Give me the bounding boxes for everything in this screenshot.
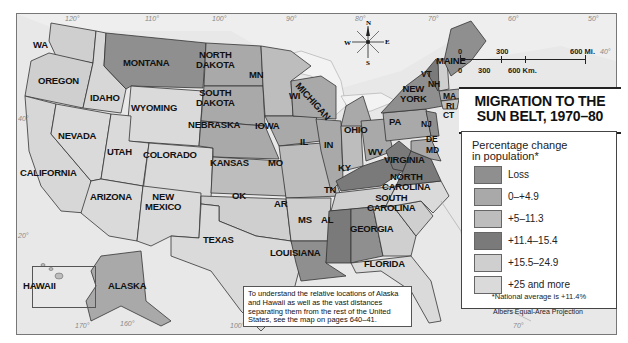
state-label-nevada: NEVADA [58,131,96,141]
state-label-hawaii: HAWAII [23,281,56,291]
legend-item-0-4.9: 0–+4.9 [474,188,614,206]
legend-item-15.5-24.9: +15.5–24.9 [474,254,614,272]
state-label-colorado: COLORADO [143,150,197,160]
legend-item-11.4-15.4: +11.4–15.4 [474,232,614,250]
longitude-label: 90° [286,15,297,22]
scale-mile-600: 600 Mi. [570,47,595,56]
longitude-label: 50° [588,15,599,22]
state-label-pa: PA [389,117,401,127]
projection-label: Albers Equal-Area Projection [461,308,615,315]
state-label-kansas: KANSAS [210,158,249,168]
state-label-wv: WV [368,147,383,157]
legend-swatch [474,232,502,250]
state-label-ct: CT [443,110,454,120]
state-label-utah: UTAH [107,147,132,157]
state-label-ky: KY [338,163,351,173]
longitude-label: 160° [120,320,134,327]
state-label-new-mexico: NEWMEXICO [145,192,181,212]
legend-item-5-11.3: +5–11.3 [474,210,614,228]
map-title: MIGRATION TO THESUN BELT, 1970–80 [459,87,621,134]
scale-mile-300: 300 [496,47,509,56]
scale-km-0: 0 [458,66,462,75]
state-label-new-york: NEWYORK [400,84,427,104]
legend-heading: Percentage changein population* [472,140,567,162]
scale-km-600: 600 Km. [508,66,537,75]
state-label-vt: VT [421,69,431,79]
state-label-tn: TN [324,185,336,195]
latitude-label: 20° [18,232,29,239]
state-label-ma: MA [443,91,456,101]
state-label-md: MD [426,145,439,155]
state-label-il: IL [300,137,308,147]
svg-text:S: S [366,59,370,66]
state-label-arizona: ARIZONA [90,192,132,202]
legend-item-loss: Loss [474,166,614,184]
latitude-label: 40° [18,115,29,122]
legend-footnote: *National average is +11.4% [462,292,616,301]
legend-swatch [474,188,502,206]
state-label-california: CALIFORNIA [20,168,77,178]
state-label-louisiana: LOUISIANA [270,248,320,258]
scale-bar: 0 300 600 Mi. 0 300 600 Km. [438,47,608,77]
state-label-south-carolina: SOUTHCAROLINA [367,193,416,213]
state-label-nj: NJ [421,119,431,129]
state-label-iowa: IOWA [255,121,280,131]
longitude-label: 70° [513,322,524,329]
state-label-wa: WA [33,40,48,50]
longitude-label: 110° [145,15,159,22]
svg-text:W: W [344,39,351,47]
longitude-label: 60° [508,15,519,22]
longitude-label: 170° [75,322,89,329]
longitude-label: 70° [428,15,439,22]
state-label-ar: AR [274,199,287,209]
compass-rose-icon: N S E W [344,18,392,66]
state-label-ms: MS [298,215,312,225]
state-label-virginia: VIRGINIA [384,155,425,165]
state-label-florida: FLORIDA [364,259,405,269]
state-label-georgia: GEORGIA [350,224,393,234]
longitude-label: 100° [212,15,226,22]
state-label-north-carolina: NORTHCAROLINA [382,172,431,192]
legend-swatch [474,166,502,184]
state-label-oregon: OREGON [38,76,79,86]
caption-box: To understand the relative locations of … [243,286,412,327]
state-label-idaho: IDAHO [90,93,120,103]
state-label-alaska: ALASKA [108,281,146,291]
state-label-wyoming: WYOMING [131,103,177,113]
state-label-in: IN [324,140,333,150]
legend-swatch [474,210,502,228]
legend: Percentage changein population* Loss 0–+… [461,131,617,309]
svg-text:E: E [385,38,390,46]
state-label-montana: MONTANA [123,58,169,68]
state-label-mn: MN [249,70,263,80]
longitude-label: 120° [65,15,79,22]
state-label-mo: MO [268,158,283,168]
state-label-north-dakota: NORTHDAKOTA [196,50,235,70]
state-label-south-dakota: SOUTHDAKOTA [196,88,235,108]
legend-swatch [474,254,502,272]
svg-text:N: N [366,19,371,27]
state-label-de: DE [426,134,437,144]
state-label-ohio: OHIO [344,125,367,135]
scale-km-300: 300 [478,66,491,75]
state-label-al: AL [321,215,333,225]
state-label-nh: NH [428,79,440,89]
state-label-ok: OK [232,191,246,201]
state-label-texas: TEXAS [203,235,234,245]
state-label-nebraska: NEBRASKA [188,120,240,130]
